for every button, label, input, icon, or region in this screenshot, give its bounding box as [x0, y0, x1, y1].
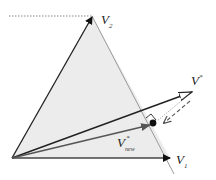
v2-subscript: 2 — [109, 22, 113, 30]
projection-dotted-line — [157, 97, 186, 121]
vnew-superscript: * — [126, 134, 130, 142]
v1-subscript: 1 — [184, 162, 188, 170]
cone-region — [12, 16, 170, 158]
diagram-canvas: V 2 V 1 V * V * new — [0, 0, 216, 180]
vstar-superscript: * — [199, 73, 203, 81]
projection-point — [150, 120, 157, 127]
vnew-subscript: new — [125, 146, 135, 152]
dashed-arrow — [164, 101, 190, 123]
